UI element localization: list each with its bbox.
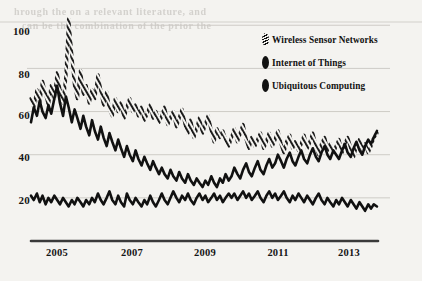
chart-screenshot: hrough the on a relevant literature, and… xyxy=(0,0,422,281)
y-tick-label-100: 100 xyxy=(0,25,30,37)
x-tick-label-2005: 2005 xyxy=(37,247,77,258)
x-tick-label-2009: 2009 xyxy=(185,247,225,258)
x-tick-label-2013: 2013 xyxy=(329,247,369,258)
legend-marker-solid-icon xyxy=(262,56,269,69)
chart-legend: Wireless Sensor Networks Internet of Thi… xyxy=(262,28,378,97)
legend-label-wireless-sensor-networks: Wireless Sensor Networks xyxy=(272,35,378,45)
y-tick-label-80: 80 xyxy=(0,68,30,80)
legend-item-internet-of-things[interactable]: Internet of Things xyxy=(262,51,378,74)
y-tick-label-60: 60 xyxy=(0,109,30,121)
x-tick-label-2011: 2011 xyxy=(258,247,298,258)
y-tick-label-20: 20 xyxy=(0,194,30,206)
x-tick-label-2007: 2007 xyxy=(112,247,152,258)
legend-item-wireless-sensor-networks[interactable]: Wireless Sensor Networks xyxy=(262,28,378,51)
legend-label-internet-of-things: Internet of Things xyxy=(272,58,346,68)
y-tick-label-40: 40 xyxy=(0,151,30,163)
legend-marker-hatched-icon xyxy=(262,33,269,46)
legend-label-ubiquitous-computing: Ubiquitous Computing xyxy=(272,81,365,91)
legend-item-ubiquitous-computing[interactable]: Ubiquitous Computing xyxy=(262,74,378,97)
legend-marker-solid-icon-2 xyxy=(262,79,269,92)
